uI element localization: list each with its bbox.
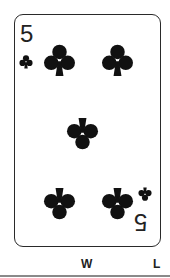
corner-club-icon-bottom [138, 187, 152, 202]
label-l: L [153, 257, 160, 271]
club-icon [66, 117, 99, 152]
club-icon [101, 42, 134, 77]
card-rank-bottom: 5 [134, 210, 147, 234]
corner-club-icon-top [19, 54, 33, 69]
club-icon [43, 187, 76, 222]
divider [0, 275, 170, 277]
club-icon [101, 187, 134, 222]
club-icon [43, 42, 76, 77]
card-rank-top: 5 [20, 22, 33, 46]
label-w: W [81, 257, 92, 271]
